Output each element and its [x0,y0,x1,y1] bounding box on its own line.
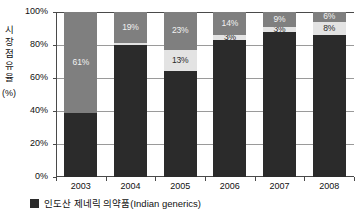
y-tick-label: 20% [2,138,48,148]
bar-segment-bottom[interactable]: 39% [64,113,97,177]
x-tick-mark [155,177,156,181]
bar-segment-bottom[interactable]: 80% [114,45,147,177]
x-tick-mark [106,177,107,181]
legend-swatch [30,199,39,208]
bar-segment-label: 14% [222,19,238,28]
bar-segment-top[interactable]: 23% [164,12,197,50]
x-axis: 200320042005200620072008 [56,177,354,193]
x-tick-label: 2008 [307,181,351,191]
y-tick-label: 40% [2,105,48,115]
y-tick-label: 60% [2,72,48,82]
bar-segment-label: 8% [323,24,335,33]
x-tick-label: 2006 [208,181,252,191]
bar-segment-top[interactable]: 6% [313,12,346,22]
bars-layer: 61%39%19%1%80%23%13%64%14%3%83%9%3%88%6%… [56,12,354,177]
bar-column[interactable]: 19%1%80% [114,12,147,177]
bar-segment-top[interactable]: 14% [213,12,246,35]
bar-segment-label: 6% [323,12,335,21]
y-tick-label: 80% [2,39,48,49]
y-axis-title: 시 장 점 유 율 (%) [1,24,17,99]
bar-segment-label: 23% [172,26,188,35]
x-tick-label: 2003 [59,181,103,191]
bar-segment-middle[interactable]: 8% [313,22,346,35]
bar-segment-top[interactable]: 19% [114,12,147,43]
bar-segment-bottom[interactable]: 86% [313,35,346,177]
bar-column[interactable]: 23%13%64% [164,12,197,177]
bar-column[interactable]: 6%8%86% [313,12,346,177]
bar-column[interactable]: 61%39% [64,12,97,177]
y-axis-title-char-2: 점 [5,48,14,60]
x-tick-mark [304,177,305,181]
y-axis-title-char-3: 유 [5,60,14,72]
x-tick-label: 2004 [109,181,153,191]
y-tick-label: 100% [2,6,48,16]
x-tick-mark [255,177,256,181]
bar-segment-bottom[interactable]: 83% [213,40,246,177]
bar-segment-bottom[interactable]: 64% [164,71,197,177]
bar-segment-top[interactable]: 9% [263,12,296,27]
x-tick-mark [354,177,355,181]
y-axis-unit: (%) [2,87,16,99]
bar-segment-label: 61% [73,58,89,67]
y-tick-label: 0% [2,171,48,181]
x-tick-mark [56,177,57,181]
bar-column[interactable]: 9%3%88% [263,12,296,177]
bar-segment-label: 13% [172,56,188,65]
x-tick-label: 2005 [158,181,202,191]
bar-segment-label: 9% [274,15,286,24]
y-axis-title-char-0: 시 [5,24,14,36]
x-tick-mark [205,177,206,181]
stacked-bar-chart: 시 장 점 유 율 (%) 0%20%40%60%80%100% 61%39%1… [0,0,362,213]
bar-column[interactable]: 14%3%83% [213,12,246,177]
x-tick-label: 2007 [258,181,302,191]
bar-segment-middle[interactable]: 13% [164,50,197,71]
bar-segment-label: 19% [122,23,138,32]
bar-segment-bottom[interactable]: 88% [263,32,296,177]
bar-segment-top[interactable]: 61% [64,12,97,113]
legend-label: 인도산 제네릭 의약품(Indian generics) [44,196,201,210]
chart-legend: 인도산 제네릭 의약품(Indian generics) [30,196,201,210]
